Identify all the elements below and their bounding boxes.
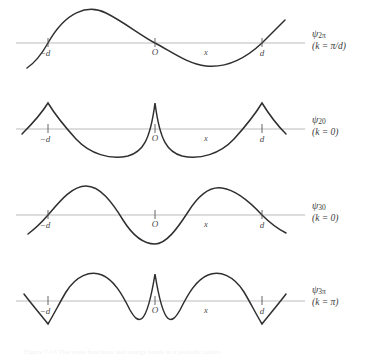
psi-symbol-3: ψ30: [312, 200, 338, 213]
panel-1-plot: −d O x d: [0, 0, 365, 86]
psi-symbol-4: ψ3π: [312, 284, 338, 297]
tick-label-minus-d: −d: [40, 48, 51, 58]
tick-label-origin: O: [152, 47, 159, 57]
figure-caption: Figure 7-13 The wave functions and energ…: [24, 348, 342, 357]
tick-label-plus-d: d: [260, 220, 265, 230]
tick-label-minus-d: −d: [40, 220, 51, 230]
panel-1-label: ψ2π (k = π/d): [312, 28, 346, 52]
panel-4-label: ψ3π (k = π): [312, 284, 338, 308]
tick-label-origin: O: [152, 133, 159, 143]
k-value-4: (k = π): [312, 297, 338, 308]
wave-curve: [22, 103, 286, 157]
tick-label-origin: O: [152, 305, 159, 315]
tick-label-plus-d: d: [260, 134, 265, 144]
panel-psi-20: −d O x d ψ20 (k = 0): [0, 86, 365, 172]
panel-3-plot: −d O x d: [0, 172, 365, 258]
k-value-2: (k = 0): [312, 127, 338, 138]
panel-psi-30: −d O x d ψ30 (k = 0): [0, 172, 365, 258]
tick-label-plus-d: d: [260, 48, 265, 58]
tick-label-x: x: [203, 133, 208, 143]
wave-curve: [27, 9, 285, 68]
tick-label-x: x: [203, 305, 208, 315]
panel-3-label: ψ30 (k = 0): [312, 200, 338, 224]
tick-label-minus-d: −d: [40, 306, 51, 316]
psi-symbol-1: ψ2π: [312, 28, 346, 41]
tick-label-plus-d: d: [260, 306, 265, 316]
panel-2-plot: −d O x d: [0, 86, 365, 172]
wavefunction-figure: −d O x d ψ2π (k = π/d) −d O x d ψ20 (k =…: [0, 0, 365, 360]
tick-label-origin: O: [152, 219, 159, 229]
panel-2-label: ψ20 (k = 0): [312, 114, 338, 138]
panel-4-plot: −d O x d: [0, 258, 365, 344]
k-value-3: (k = 0): [312, 213, 338, 224]
k-value-1: (k = π/d): [312, 41, 346, 52]
panel-psi-3pi: −d O x d ψ3π (k = π): [0, 258, 365, 344]
tick-label-x: x: [203, 219, 208, 229]
tick-label-minus-d: −d: [40, 134, 51, 144]
psi-symbol-2: ψ20: [312, 114, 338, 127]
panel-psi-2pi: −d O x d ψ2π (k = π/d): [0, 0, 365, 86]
tick-label-x: x: [203, 47, 208, 57]
